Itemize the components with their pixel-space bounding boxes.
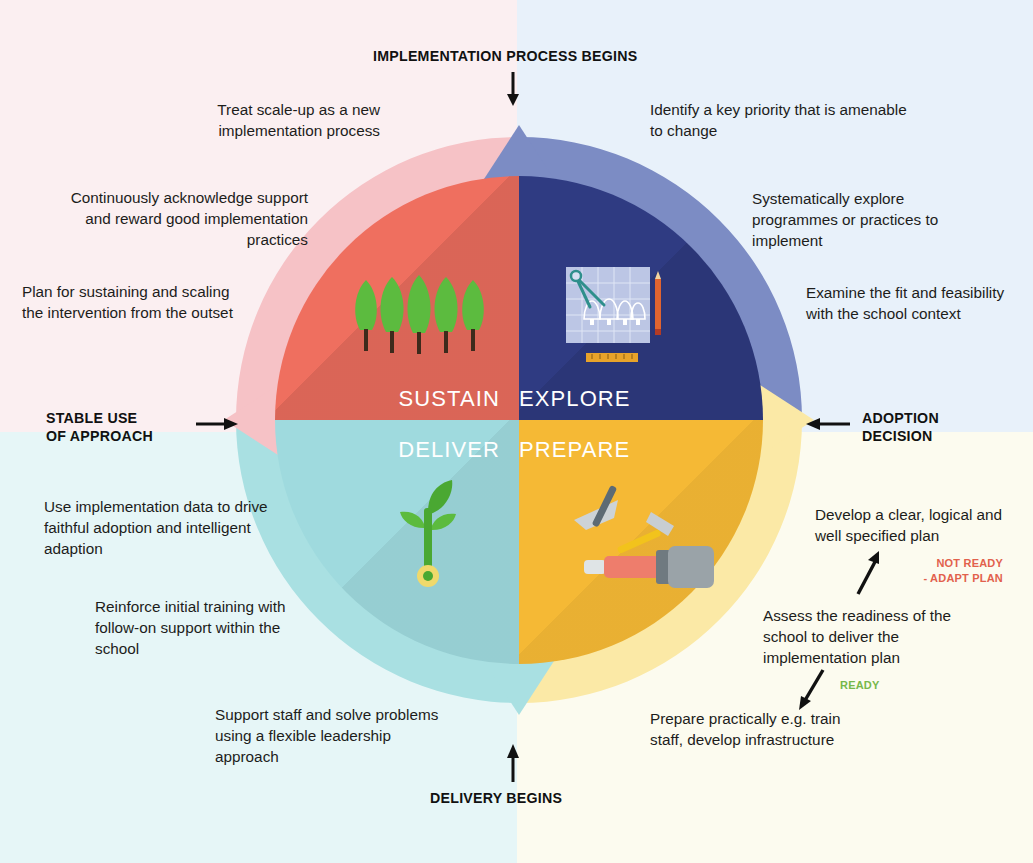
arrow-down-top [506,72,520,108]
note-explore-1: Identify a key priority that is amenable… [650,100,910,142]
note-deliver-1: Use implementation data to drive faithfu… [44,497,284,560]
arrow-up-bottom [506,744,520,782]
trees-icon [352,272,512,362]
quadrant-label-explore: EXPLORE [519,386,631,412]
arrow-ready [795,668,829,712]
note-deliver-3: Support staff and solve problems using a… [215,705,450,768]
not-ready-line2: - ADAPT PLAN [897,571,1003,586]
note-sustain-1: Treat scale-up as a new implementation p… [130,100,380,142]
diagram-canvas: SUSTAIN EXPLORE DELIVER PREPARE Treat sc… [0,0,1033,863]
arrow-left-right-side [804,417,850,431]
stage-caption-right-line2: DECISION [862,427,939,445]
blueprint-icon [560,263,670,368]
quadrant-label-deliver: DELIVER [398,437,500,463]
quadrant-label-sustain: SUSTAIN [399,386,500,412]
note-deliver-2: Reinforce initial training with follow-o… [95,597,325,660]
stage-caption-right: ADOPTION DECISION [862,409,939,446]
stage-caption-bottom: DELIVERY BEGINS [430,789,562,807]
stage-caption-right-line1: ADOPTION [862,409,939,427]
note-sustain-2: Continuously acknowledge support and rew… [58,188,308,251]
stage-caption-top: IMPLEMENTATION PROCESS BEGINS [373,47,637,65]
decision-label-not-ready: NOT READY - ADAPT PLAN [897,556,1003,586]
note-sustain-3: Plan for sustaining and scaling the inte… [22,282,254,324]
tools-icon [556,482,716,607]
stage-caption-left-line1: STABLE USE [46,409,153,427]
stage-caption-left-line2: OF APPROACH [46,427,153,445]
stage-caption-left: STABLE USE OF APPROACH [46,409,153,446]
note-prepare-1: Develop a clear, logical and well specif… [815,505,1025,547]
quadrant-label-prepare: PREPARE [519,437,630,463]
seedling-icon [372,478,484,596]
not-ready-line1: NOT READY [897,556,1003,571]
arrow-not-ready [854,550,886,596]
note-prepare-2: Assess the readiness of the school to de… [763,606,983,669]
arrow-right-left-side [196,417,240,431]
note-explore-3: Examine the fit and feasibility with the… [806,283,1006,325]
decision-label-ready: READY [840,678,880,693]
note-prepare-3: Prepare practically e.g. train staff, de… [650,709,875,751]
note-explore-2: Systematically explore programmes or pra… [752,189,982,252]
